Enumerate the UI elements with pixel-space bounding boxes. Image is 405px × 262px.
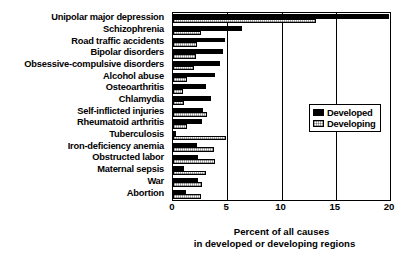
legend-swatch-developed <box>313 109 324 116</box>
category-label: Maternal sepsis <box>0 164 168 176</box>
bar-developing <box>173 182 202 187</box>
x-axis-title-line2: in developed or developing regions <box>158 238 391 250</box>
bar-row <box>173 60 390 72</box>
bar-developing <box>173 136 226 141</box>
bar-developing <box>173 42 197 47</box>
category-label: Abortion <box>0 187 168 199</box>
category-label: Unipolar major depression <box>0 12 168 24</box>
category-label-column: Unipolar major depressionSchizophreniaRo… <box>0 12 168 199</box>
bar-row <box>173 142 390 154</box>
category-label: Obstructed labor <box>0 152 168 164</box>
bar-row <box>173 25 390 37</box>
category-label: Self-inflicted injuries <box>0 106 168 118</box>
bar-developing <box>173 159 215 164</box>
bar-developing <box>173 66 194 71</box>
x-tick-label: 15 <box>329 202 340 212</box>
category-label: Rheumatoid arthritis <box>0 117 168 129</box>
bar-row <box>173 48 390 60</box>
category-label: Road traffic accidents <box>0 35 168 47</box>
bar-row <box>173 83 390 95</box>
bar-developing <box>173 112 207 117</box>
horizontal-bar-chart: Unipolar major depressionSchizophreniaRo… <box>0 0 405 262</box>
category-label: Obsessive-compulsive disorders <box>0 59 168 71</box>
x-tick-label: 10 <box>275 202 286 212</box>
bar-developing <box>173 89 183 94</box>
category-label: Iron-deficiency anemia <box>0 141 168 153</box>
bar-row <box>173 13 390 25</box>
bar-row <box>173 36 390 48</box>
legend-label-developing: Developing <box>327 119 376 128</box>
bar-developing <box>173 124 187 129</box>
x-axis-title: Percent of all causes in developed or de… <box>172 226 391 250</box>
bar-row <box>173 165 390 177</box>
legend-label-developed: Developed <box>327 108 373 117</box>
bar-row <box>173 71 390 83</box>
bar-developing <box>173 147 214 152</box>
bar-developing <box>173 19 316 24</box>
category-label: Alcohol abuse <box>0 70 168 82</box>
bar-row <box>173 177 390 189</box>
x-tick-label: 20 <box>384 202 395 212</box>
legend-swatch-developing <box>313 120 324 127</box>
category-label: Chlamydia <box>0 94 168 106</box>
x-tick-label: 5 <box>224 202 229 212</box>
bar-developing <box>173 101 184 106</box>
category-label: Bipolar disorders <box>0 47 168 59</box>
legend-item-developing: Developing <box>313 118 376 129</box>
category-label: Tuberculosis <box>0 129 168 141</box>
category-label: War <box>0 176 168 188</box>
bar-developing <box>173 31 201 36</box>
category-label: Schizophrenia <box>0 24 168 36</box>
category-label: Osteoarthritis <box>0 82 168 94</box>
chart-legend: Developed Developing <box>309 104 381 132</box>
bar-developing <box>173 171 206 176</box>
x-axis-title-line1: Percent of all causes <box>172 226 391 238</box>
bar-developing <box>173 77 187 82</box>
x-tick-label: 0 <box>169 202 174 212</box>
bar-developing <box>173 54 196 59</box>
bar-row <box>173 153 390 165</box>
bar-row <box>173 188 390 200</box>
legend-item-developed: Developed <box>313 107 376 118</box>
x-axis-ticks: 05101520 <box>172 201 391 215</box>
bar-developing <box>173 194 201 199</box>
